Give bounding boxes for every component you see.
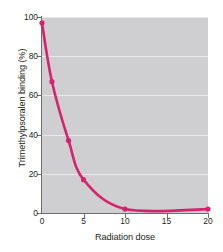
gridline xyxy=(42,135,208,136)
plot-area xyxy=(42,17,208,213)
x-tick-label: 20 xyxy=(196,217,220,225)
x-axis-line xyxy=(41,213,209,214)
chart-figure: 020406080100 05101520 Trimethylpsoralen … xyxy=(0,0,223,252)
y-axis-line xyxy=(41,16,42,214)
x-tick-label: 15 xyxy=(155,217,179,225)
x-tick-label: 10 xyxy=(113,217,137,225)
x-axis-tick-labels: 05101520 xyxy=(0,217,223,231)
x-tick-label: 0 xyxy=(30,217,54,225)
gridline xyxy=(42,174,208,175)
x-axis-title: Radiation dose xyxy=(42,232,208,242)
gridline xyxy=(42,95,208,96)
gridline xyxy=(42,17,208,18)
gridline xyxy=(42,56,208,57)
y-axis-title: Trimethylpsoralen binding (%) xyxy=(17,8,27,208)
x-tick-label: 5 xyxy=(72,217,96,225)
